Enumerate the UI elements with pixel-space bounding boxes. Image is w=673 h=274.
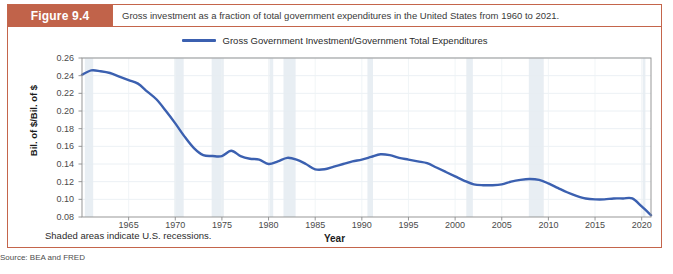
figure-caption: Gross investment as a fraction of total … [112, 5, 661, 27]
y-axis-title: Bil. of $/Bil. of $ [28, 51, 39, 191]
x-tick-label: 1985 [305, 220, 325, 230]
x-tick-label: 1965 [119, 220, 139, 230]
plot-wrapper: Bil. of $/Bil. of $ 0.080.100.120.140.16… [8, 27, 661, 247]
y-axis-tick-labels: 0.080.100.120.140.160.180.200.220.240.26 [44, 27, 74, 247]
x-tick-label: 2010 [538, 220, 558, 230]
recession-note: Shaded areas indicate U.S. recessions. [45, 230, 211, 241]
x-tick-label: 2020 [632, 220, 652, 230]
x-tick-label: 1990 [352, 220, 372, 230]
y-tick-label: 0.18 [46, 124, 74, 134]
x-tick-label: 1995 [398, 220, 418, 230]
y-tick-label: 0.22 [46, 88, 74, 98]
y-tick-label: 0.26 [46, 53, 74, 63]
x-tick-label: 1975 [212, 220, 232, 230]
y-tick-label: 0.12 [46, 177, 74, 187]
line-chart-plot [8, 27, 661, 247]
figure-number-tag: Figure 9.4 [8, 5, 112, 27]
y-tick-label: 0.20 [46, 106, 74, 116]
x-tick-label: 1970 [165, 220, 185, 230]
x-tick-label: 2000 [445, 220, 465, 230]
source-line: Source: BEA and FRED [0, 253, 85, 262]
y-tick-label: 0.10 [46, 194, 74, 204]
x-tick-label: 2015 [585, 220, 605, 230]
x-tick-label: 2005 [492, 220, 512, 230]
y-tick-label: 0.16 [46, 141, 74, 151]
figure-container: Figure 9.4 Gross investment as a fractio… [7, 4, 662, 248]
figure-header: Figure 9.4 Gross investment as a fractio… [8, 5, 661, 27]
y-tick-label: 0.24 [46, 71, 74, 81]
x-tick-label: 1980 [259, 220, 279, 230]
chart-region: Gross Government Investment/Government T… [8, 27, 661, 247]
y-tick-label: 0.14 [46, 159, 74, 169]
